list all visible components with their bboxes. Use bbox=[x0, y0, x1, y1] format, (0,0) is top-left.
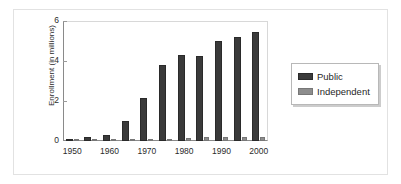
bar-independent-1975 bbox=[167, 139, 172, 141]
bar-public-1955 bbox=[84, 137, 91, 141]
bar-public-1965 bbox=[122, 121, 129, 141]
bar-independent-1955 bbox=[92, 139, 97, 141]
x-tick-label-2000: 2000 bbox=[249, 146, 268, 156]
bar-independent-1965 bbox=[130, 139, 135, 141]
legend-item-independent: Independent bbox=[298, 86, 370, 97]
y-tick-mark-6 bbox=[63, 21, 67, 22]
bar-public-1950 bbox=[66, 139, 73, 141]
bar-independent-1970 bbox=[148, 139, 153, 141]
x-tick-label-1990: 1990 bbox=[212, 146, 231, 156]
y-tick-mark-2 bbox=[63, 101, 67, 102]
legend-label-public: Public bbox=[317, 71, 343, 82]
bar-independent-2000 bbox=[260, 137, 265, 141]
bars-layer bbox=[63, 21, 268, 141]
y-tick-label-0: 0 bbox=[54, 136, 59, 145]
y-tick-label-2: 2 bbox=[54, 96, 59, 105]
bar-public-1975 bbox=[159, 65, 166, 141]
y-tick-label-4: 4 bbox=[54, 56, 59, 65]
bar-independent-1990 bbox=[223, 137, 228, 141]
chart-figure: Enrollment (in millions) 0246 1950196019… bbox=[0, 0, 401, 184]
legend-swatch-public-icon bbox=[298, 73, 313, 80]
bar-independent-1980 bbox=[186, 138, 191, 141]
chart-legend: Public Independent bbox=[291, 63, 379, 105]
bar-public-1995 bbox=[234, 37, 241, 141]
bar-independent-1995 bbox=[242, 137, 247, 141]
bar-public-1970 bbox=[140, 98, 147, 141]
y-axis-label-container: Enrollment (in millions) bbox=[24, 21, 38, 141]
bar-public-1960 bbox=[103, 135, 110, 141]
legend-item-public: Public bbox=[298, 71, 343, 82]
legend-label-independent: Independent bbox=[317, 86, 370, 97]
x-tick-label-1970: 1970 bbox=[137, 146, 156, 156]
x-tick-label-1950: 1950 bbox=[63, 146, 82, 156]
x-tick-label-1960: 1960 bbox=[100, 146, 119, 156]
bar-independent-1985 bbox=[204, 137, 209, 141]
y-tick-mark-4 bbox=[63, 61, 67, 62]
y-axis-tick-labels: 0246 bbox=[40, 21, 59, 141]
bar-independent-1960 bbox=[111, 139, 116, 141]
x-axis-tick-labels: 195019601970198019902000 bbox=[63, 146, 268, 158]
bar-public-1980 bbox=[178, 55, 185, 141]
bar-public-2000 bbox=[252, 32, 259, 141]
bar-independent-1950 bbox=[74, 139, 79, 141]
bar-public-1990 bbox=[215, 41, 222, 141]
y-tick-label-6: 6 bbox=[54, 16, 59, 25]
x-tick-label-1980: 1980 bbox=[175, 146, 194, 156]
bar-public-1985 bbox=[196, 56, 203, 141]
legend-swatch-independent-icon bbox=[298, 88, 313, 95]
